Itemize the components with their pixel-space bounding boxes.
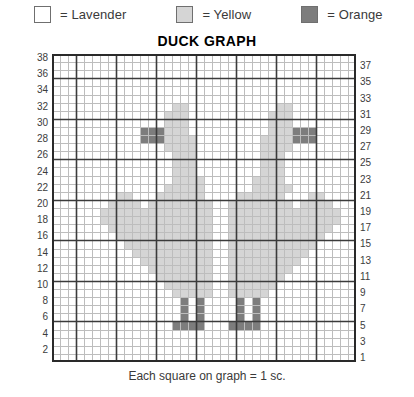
axis-left-tick-34: 34 xyxy=(18,86,48,94)
axis-right-tick-35: 35 xyxy=(360,78,390,86)
axis-right-tick-33: 33 xyxy=(360,95,390,103)
legend-swatch-lavender xyxy=(34,6,51,23)
axis-left-tick-8: 8 xyxy=(18,297,48,305)
axis-right-tick-1: 1 xyxy=(360,354,390,362)
axis-right-tick-21: 21 xyxy=(360,192,390,200)
page-title: DUCK GRAPH xyxy=(0,33,414,49)
legend-swatch-orange xyxy=(301,6,318,23)
axis-right-tick-23: 23 xyxy=(360,176,390,184)
axis-right-tick-25: 25 xyxy=(360,159,390,167)
axis-right-tick-19: 19 xyxy=(360,208,390,216)
axis-left-tick-38: 38 xyxy=(18,54,48,62)
axis-right-tick-31: 31 xyxy=(360,111,390,119)
axis-left-tick-24: 24 xyxy=(18,168,48,176)
axis-left-tick-16: 16 xyxy=(18,232,48,240)
axis-left-tick-32: 32 xyxy=(18,103,48,111)
pattern-grid xyxy=(52,54,356,362)
axis-left-tick-36: 36 xyxy=(18,70,48,78)
axis-right-tick-11: 11 xyxy=(360,273,390,281)
axis-left-tick-20: 20 xyxy=(18,200,48,208)
axis-left-tick-22: 22 xyxy=(18,184,48,192)
axis-left-tick-12: 12 xyxy=(18,265,48,273)
legend-label-orange: = Orange xyxy=(327,7,382,22)
axis-left-tick-10: 10 xyxy=(18,281,48,289)
chart-caption: Each square on graph = 1 sc. xyxy=(0,369,414,383)
legend-item-orange: = Orange xyxy=(301,6,382,23)
axis-right-tick-29: 29 xyxy=(360,127,390,135)
axis-right-tick-27: 27 xyxy=(360,143,390,151)
axis-right-tick-9: 9 xyxy=(360,289,390,297)
legend-swatch-yellow xyxy=(176,6,193,23)
axis-left-tick-4: 4 xyxy=(18,330,48,338)
axis-right-tick-3: 3 xyxy=(360,338,390,346)
legend-item-yellow: = Yellow xyxy=(176,6,251,23)
axis-left-tick-6: 6 xyxy=(18,313,48,321)
legend-label-lavender: = Lavender xyxy=(60,7,126,22)
axis-right-tick-15: 15 xyxy=(360,240,390,248)
axis-left-tick-2: 2 xyxy=(18,346,48,354)
axis-right: 373533312927252321191715131197531 xyxy=(360,54,390,362)
axis-left-tick-30: 30 xyxy=(18,119,48,127)
axis-left: 3836343230282624222018161412108642 xyxy=(18,54,48,362)
axis-right-tick-7: 7 xyxy=(360,305,390,313)
axis-left-tick-28: 28 xyxy=(18,135,48,143)
legend-item-lavender: = Lavender xyxy=(34,6,126,23)
axis-right-tick-37: 37 xyxy=(360,62,390,70)
legend: = Lavender = Yellow = Orange xyxy=(0,0,414,28)
axis-left-tick-14: 14 xyxy=(18,249,48,257)
axis-left-tick-26: 26 xyxy=(18,151,48,159)
axis-right-tick-5: 5 xyxy=(360,322,390,330)
axis-right-tick-13: 13 xyxy=(360,257,390,265)
axis-left-tick-18: 18 xyxy=(18,216,48,224)
axis-right-tick-17: 17 xyxy=(360,224,390,232)
legend-label-yellow: = Yellow xyxy=(202,7,251,22)
duck-graph-chart xyxy=(52,54,356,362)
